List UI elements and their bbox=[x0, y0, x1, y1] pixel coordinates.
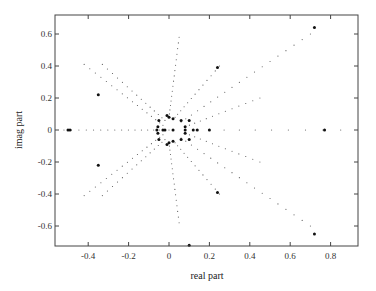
trail-dot bbox=[245, 103, 246, 104]
trail-dot bbox=[171, 96, 172, 97]
trail-dot bbox=[63, 129, 64, 130]
trail-dot bbox=[175, 194, 176, 195]
pole-dot bbox=[97, 93, 100, 96]
trail-dot bbox=[121, 129, 122, 130]
trail-dot bbox=[180, 110, 181, 111]
trail-dot bbox=[155, 140, 156, 141]
trail-dot bbox=[171, 158, 172, 159]
trail-dot bbox=[206, 179, 207, 180]
pole-dot bbox=[313, 26, 316, 29]
trail-dot bbox=[173, 81, 174, 82]
trail-dot bbox=[141, 160, 142, 161]
pole-dot bbox=[156, 132, 159, 135]
trail-dot bbox=[177, 211, 178, 212]
trail-dot bbox=[107, 190, 108, 191]
trail-dot bbox=[238, 106, 239, 107]
trail-dot bbox=[161, 142, 162, 143]
trail-dot bbox=[162, 134, 163, 135]
trail-dot bbox=[137, 154, 138, 155]
trail-dot bbox=[106, 81, 107, 82]
trail-dot bbox=[310, 225, 311, 226]
pole-dot bbox=[216, 66, 219, 69]
trail-dot bbox=[154, 149, 155, 150]
trail-dot bbox=[159, 137, 160, 138]
trail-dot bbox=[95, 186, 96, 187]
trail-dot bbox=[189, 125, 190, 126]
trail-dot bbox=[122, 82, 123, 83]
trail-dot bbox=[158, 145, 159, 146]
trail-dot bbox=[93, 129, 94, 130]
trail-dot bbox=[145, 156, 146, 157]
trail-dot bbox=[171, 100, 172, 101]
trail-dot bbox=[200, 120, 201, 121]
trail-dot bbox=[153, 129, 154, 130]
trail-dot bbox=[255, 129, 256, 130]
trail-dot bbox=[203, 153, 204, 154]
trail-dot bbox=[269, 61, 270, 62]
trail-dot bbox=[89, 191, 90, 192]
trail-dot bbox=[117, 89, 118, 90]
trail-dot bbox=[277, 56, 278, 57]
trail-dot bbox=[136, 95, 137, 96]
trail-dot bbox=[132, 168, 133, 169]
trail-dot bbox=[231, 172, 232, 173]
trail-dot bbox=[168, 129, 169, 130]
trail-dot bbox=[159, 129, 160, 130]
trail-dot bbox=[159, 122, 160, 123]
trail-dot bbox=[189, 134, 190, 135]
pole-dot bbox=[172, 140, 175, 143]
trail-dot bbox=[254, 187, 255, 188]
trail-dot bbox=[147, 129, 148, 130]
trail-dot bbox=[239, 177, 240, 178]
trail-dot bbox=[285, 209, 286, 210]
pole-dot bbox=[168, 141, 171, 144]
trail-dot bbox=[187, 157, 188, 158]
pole-dot bbox=[184, 125, 187, 128]
trail-dot bbox=[180, 149, 181, 150]
trail-dot bbox=[218, 113, 219, 114]
x-tick-label: 0.6 bbox=[285, 251, 297, 261]
trail-dot bbox=[184, 106, 185, 107]
trail-dot bbox=[122, 177, 123, 178]
trail-dot bbox=[173, 178, 174, 179]
y-axis-label: imag part bbox=[13, 111, 24, 149]
pole-dot bbox=[180, 119, 183, 122]
trail-dot bbox=[219, 193, 220, 194]
trail-dot bbox=[210, 101, 211, 102]
trail-dot bbox=[277, 203, 278, 204]
trail-dot bbox=[194, 123, 195, 124]
trail-dot bbox=[175, 117, 176, 118]
trail-dot bbox=[150, 152, 151, 153]
trail-dot bbox=[302, 39, 303, 40]
trail-dot bbox=[122, 166, 123, 167]
trail-dot bbox=[127, 173, 128, 174]
trail-dot bbox=[269, 198, 270, 199]
trail-dot bbox=[169, 109, 170, 110]
trail-dot bbox=[117, 77, 118, 78]
trail-dot bbox=[134, 129, 135, 130]
trail-dot bbox=[225, 111, 226, 112]
trail-dot bbox=[206, 141, 207, 142]
trail-dot bbox=[197, 110, 198, 111]
pole-dot bbox=[323, 129, 326, 132]
trail-dot bbox=[262, 66, 263, 67]
trail-dot bbox=[174, 189, 175, 190]
trail-dot bbox=[89, 68, 90, 69]
axis-ticks: -0.4-0.200.20.40.60.8-0.6-0.4-0.200.20.4… bbox=[38, 15, 358, 261]
pole-markers bbox=[67, 26, 327, 247]
trail-dot bbox=[177, 114, 178, 115]
y-tick-label: -0.6 bbox=[38, 221, 53, 231]
trail-dot bbox=[211, 184, 212, 185]
trail-dot bbox=[215, 189, 216, 190]
trail-dot bbox=[178, 42, 179, 43]
trail-dot bbox=[150, 107, 151, 108]
trail-dot bbox=[176, 200, 177, 201]
trail-dot bbox=[197, 149, 198, 150]
y-tick-label: 0.6 bbox=[41, 29, 53, 39]
trail-dot bbox=[174, 184, 175, 185]
trail-dot bbox=[212, 143, 213, 144]
trail-dot bbox=[262, 193, 263, 194]
pole-dot bbox=[97, 164, 100, 167]
trail-dot bbox=[127, 97, 128, 98]
pole-dot bbox=[216, 191, 219, 194]
